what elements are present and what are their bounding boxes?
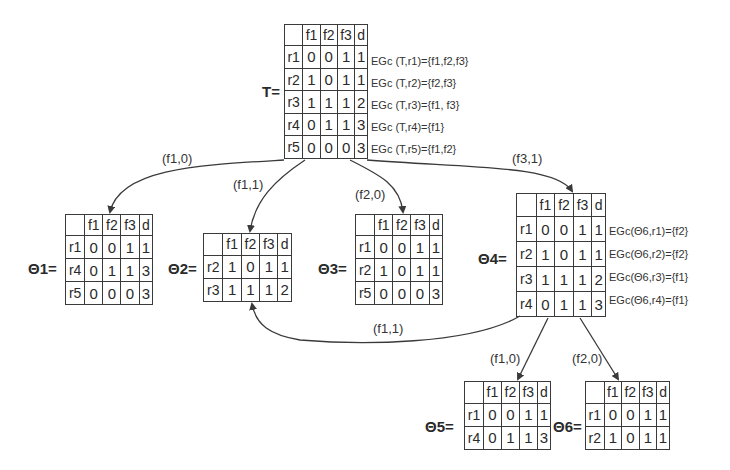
table-label-theta6: Θ6=	[553, 418, 582, 435]
cell: 1	[103, 259, 121, 282]
table-header-row: f1 f2 f3 d	[204, 234, 292, 256]
header-cell-f3: f3	[639, 382, 657, 404]
cell: 1	[657, 426, 670, 449]
cell: 1	[303, 91, 320, 114]
edge-label-t-theta1: (f1,0)	[162, 151, 192, 166]
cell: 0	[303, 113, 320, 136]
cell: 0	[555, 242, 574, 267]
cell: 0	[103, 282, 121, 305]
cell: 1	[303, 68, 320, 91]
row-id: r1	[285, 46, 303, 69]
cell: 1	[657, 403, 670, 426]
annotation-theta4-r4: EGc(Θ6,r4)={f1}	[609, 294, 688, 306]
cell: 0	[501, 403, 519, 426]
cell: 0	[103, 236, 121, 259]
row-id: r4	[465, 426, 484, 449]
cell: 1	[121, 236, 139, 259]
cell: 1	[536, 267, 555, 292]
table-label-theta4: Θ4=	[478, 250, 507, 267]
row-id: r1	[465, 403, 484, 426]
header-cell-d: d	[429, 215, 442, 236]
table-row: r50003	[66, 282, 153, 305]
cell: 0	[320, 136, 337, 159]
table-row: r10011	[285, 46, 368, 69]
row-id: r1	[517, 217, 537, 242]
table-label-theta2: Θ2=	[168, 260, 197, 277]
row-id: r5	[356, 282, 375, 305]
header-cell-f2: f2	[555, 194, 574, 217]
table-label-t: T=	[262, 83, 280, 100]
cell: 1	[375, 259, 393, 282]
annotation-t-r1: EGc (T,r1)={f1,f2,f3}	[371, 55, 469, 67]
cell: 3	[355, 136, 368, 159]
cell: 1	[429, 259, 442, 282]
cell: 3	[592, 292, 606, 317]
cell: 1	[337, 68, 354, 91]
edge-arrow-t-theta2	[250, 160, 305, 231]
row-id: r5	[285, 136, 303, 159]
table-theta3: f1 f2 f3 d r10011 r21011 r50003	[355, 214, 443, 305]
row-id: r4	[517, 292, 537, 317]
table-row: r10011	[66, 236, 153, 259]
cell: 1	[121, 259, 139, 282]
table-row: r31112	[517, 267, 606, 292]
edge-label-theta4-theta2: (f1,1)	[373, 321, 403, 336]
cell: 1	[355, 68, 368, 91]
header-cell-empty	[356, 215, 375, 236]
header-cell-f3: f3	[573, 194, 592, 217]
cell: 1	[411, 259, 429, 282]
edge-arrow-theta4-theta5	[518, 318, 548, 379]
cell: 0	[241, 255, 259, 278]
table-theta1: f1 f2 f3 d r10011 r40113 r50003	[65, 214, 153, 305]
cell: 0	[484, 403, 502, 426]
table-theta5: f1 f2 f3 d r10011 r40113	[464, 381, 551, 450]
table-t: f1 f2 f3 d r10011 r21011 r31112 r40113 r…	[284, 24, 368, 159]
annotation-theta4-r2: EGc(Θ6,r2)={f2}	[609, 248, 688, 260]
cell: 0	[555, 217, 574, 242]
cell: 1	[573, 292, 592, 317]
table-header-row: f1 f2 f3 d	[285, 25, 368, 46]
cell: 0	[121, 282, 139, 305]
cell: 0	[303, 136, 320, 159]
header-cell-f1: f1	[484, 382, 502, 404]
header-cell-d: d	[355, 25, 368, 46]
header-cell-f3: f3	[337, 25, 354, 46]
header-cell-f1: f1	[536, 194, 555, 217]
cell: 1	[278, 255, 292, 278]
header-cell-empty	[285, 25, 303, 46]
cell: 1	[320, 91, 337, 114]
cell: 1	[260, 278, 278, 301]
edge-label-theta4-theta5: (f1,0)	[490, 351, 520, 366]
annotation-t-r4: EGc (T,r4)={f1}	[371, 121, 444, 133]
header-cell-f1: f1	[375, 215, 393, 236]
cell: 1	[604, 426, 622, 449]
cell: 1	[573, 217, 592, 242]
cell: 1	[536, 242, 555, 267]
cell: 2	[278, 278, 292, 301]
cell: 1	[241, 278, 259, 301]
header-cell-f3: f3	[121, 215, 139, 236]
edge-label-t-theta4: (f3,1)	[512, 151, 542, 166]
table-row: r40113	[285, 113, 368, 136]
cell: 0	[85, 236, 103, 259]
table-header-row: f1 f2 f3 d	[517, 194, 606, 217]
cell: 1	[573, 267, 592, 292]
table-theta6: f1 f2 f3 d r10011 r21011	[585, 381, 670, 450]
table-row: r21011	[285, 68, 368, 91]
header-cell-d: d	[657, 382, 670, 404]
header-cell-f2: f2	[320, 25, 337, 46]
cell: 0	[375, 282, 393, 305]
cell: 0	[320, 68, 337, 91]
table-row: r21011	[517, 242, 606, 267]
cell: 1	[429, 236, 442, 259]
header-cell-f1: f1	[303, 25, 320, 46]
cell: 1	[411, 236, 429, 259]
table-row: r40113	[517, 292, 606, 317]
cell: 3	[139, 259, 152, 282]
table-label-theta1: Θ1=	[28, 260, 57, 277]
edge-arrow-t-theta3	[350, 160, 403, 212]
row-id: r3	[285, 91, 303, 114]
table-row: r50003	[356, 282, 443, 305]
cell: 1	[139, 236, 152, 259]
cell: 1	[555, 267, 574, 292]
